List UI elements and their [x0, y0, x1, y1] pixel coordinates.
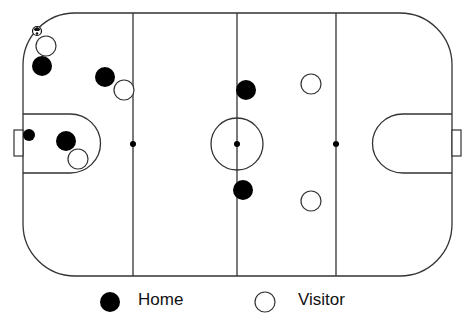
- visitor-player: [68, 149, 88, 169]
- home-player: [233, 180, 253, 200]
- visitor-players: [36, 36, 321, 211]
- visitor-player: [114, 80, 134, 100]
- home-players: [23, 56, 256, 200]
- visitor-player: [301, 191, 321, 211]
- left-goal: [14, 130, 23, 156]
- hockey-rink-diagram: [0, 0, 472, 326]
- home-player: [32, 56, 52, 76]
- faceoff-dot-right: [333, 141, 339, 147]
- legend-visitor-label: Visitor: [298, 290, 345, 310]
- home-player: [56, 131, 76, 151]
- visitor-player: [36, 36, 56, 56]
- legend-home-label: Home: [138, 290, 183, 310]
- legend-visitor-swatch: [255, 292, 275, 312]
- legend-home-swatch: [100, 292, 120, 312]
- ball-icon: [33, 27, 42, 36]
- faceoff-dot-center: [234, 141, 240, 147]
- right-goal: [452, 130, 461, 156]
- home-player: [23, 129, 35, 141]
- visitor-player: [301, 74, 321, 94]
- home-player: [95, 67, 115, 87]
- faceoff-dot-left: [130, 141, 136, 147]
- home-player: [236, 80, 256, 100]
- right-crease: [372, 114, 452, 173]
